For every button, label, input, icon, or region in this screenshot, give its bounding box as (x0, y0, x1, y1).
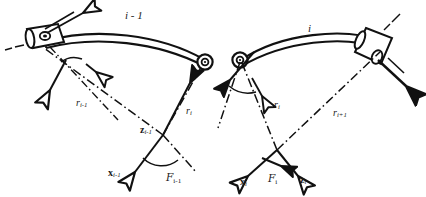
revolute-joint-right (232, 52, 247, 67)
x-prev-vector (135, 135, 163, 172)
x-prev-subscript: i-1 (113, 171, 121, 178)
frame-prev-label: Fi-1 (166, 172, 181, 185)
r-curr-subscript-right: i (278, 103, 280, 110)
joint-angle-arc-right (229, 86, 256, 93)
z-curr-label: zi (300, 175, 306, 186)
r-prev-subscript: i-1 (80, 101, 88, 108)
revolute-joint-left (197, 54, 212, 69)
r-next-label: ri+1 (333, 108, 347, 119)
z-prev-subscript: i-1 (144, 128, 152, 135)
frame-angle-arc-left (143, 158, 178, 166)
axis-tick-arrow-left (86, 64, 96, 72)
frame-curr-subscript: i (275, 178, 277, 186)
z-curr-subscript: i (304, 178, 306, 185)
r-next-subscript: i+1 (337, 111, 347, 118)
r-curr-label-left: ri (186, 106, 192, 117)
z-curr-vector (277, 150, 298, 176)
r-curr-ray-right (242, 63, 277, 150)
z-prev-axis-extension (163, 135, 196, 172)
kinematic-diagram (0, 0, 426, 197)
x-curr-label: xi (240, 177, 247, 188)
link-label-prev: i - 1 (125, 10, 143, 21)
r-next-ray (277, 52, 380, 150)
r-curr-subscript-left: i (190, 109, 192, 116)
figure-canvas: i - 1 i ri-1 ri zi-1 xi-1 Fi-1 ri ri+1 x… (0, 0, 426, 197)
x-curr-subscript: i (245, 180, 247, 187)
prismatic-direction-arrow-left (50, 60, 66, 90)
frame-prev-subscript: i-1 (173, 177, 181, 185)
curved-link-beam-left (46, 34, 205, 66)
r-curr-label-right: ri (274, 100, 280, 111)
x-prev-label: xi-1 (108, 168, 121, 179)
frame-curr-label: Fi (268, 173, 277, 186)
prismatic-actuator-right (353, 14, 400, 65)
z-prev-label: zi-1 (140, 125, 152, 136)
r-prev-label: ri-1 (76, 98, 87, 109)
link-label-curr: i (308, 23, 311, 34)
